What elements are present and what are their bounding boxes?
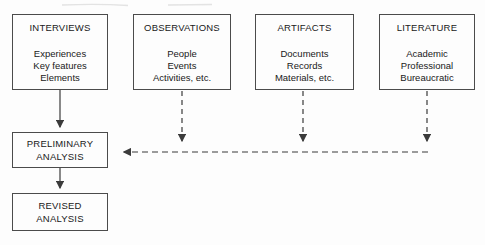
data-analysis-flow-diagram: INTERVIEWS Experiences Key features Elem… (0, 0, 485, 245)
scan-artifact-line (62, 4, 212, 5)
connector-layer (0, 0, 485, 245)
